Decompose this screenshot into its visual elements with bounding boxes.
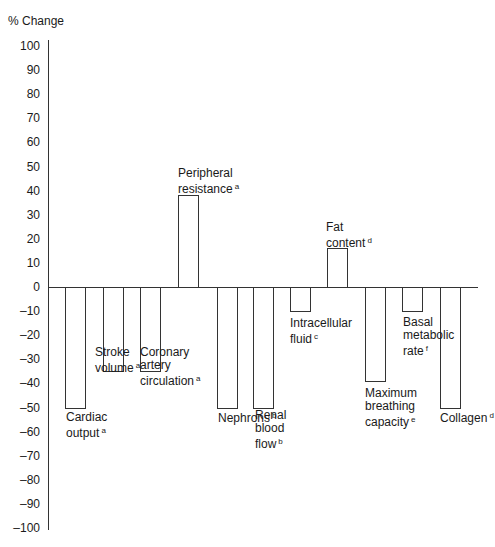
bar — [217, 287, 238, 409]
footnote-marker: a — [196, 374, 200, 383]
y-tick-label: –60 — [0, 426, 40, 438]
y-tick-label: 80 — [0, 88, 40, 100]
y-tick-label: 0 — [0, 281, 40, 293]
footnote-marker: a — [101, 426, 105, 435]
bar — [365, 287, 386, 382]
y-axis-label: % Change — [8, 14, 64, 28]
y-tick-label: –100 — [0, 522, 40, 534]
y-tick-label: 90 — [0, 64, 40, 76]
bar-label: Peripheralresistancea — [178, 167, 239, 196]
bar — [65, 287, 86, 409]
y-tick-label: –30 — [0, 353, 40, 365]
y-tick-label: 100 — [0, 40, 40, 52]
bar-label: Maximumbreathingcapacitye — [365, 387, 417, 429]
y-tick-label: –80 — [0, 474, 40, 486]
y-tick-label: 10 — [0, 257, 40, 269]
footnote-marker: d — [489, 411, 493, 420]
y-tick-label: –40 — [0, 377, 40, 389]
bar-label: Collagend — [440, 409, 494, 425]
footnote-marker: a — [235, 182, 239, 191]
y-tick-label: –10 — [0, 305, 40, 317]
footnote-marker: f — [426, 344, 428, 353]
footnote-marker: d — [367, 236, 371, 245]
y-tick-label: –90 — [0, 498, 40, 510]
y-tick-label: 30 — [0, 209, 40, 221]
y-axis-line — [48, 40, 49, 530]
y-tick-label: 20 — [0, 233, 40, 245]
bar-label: Basalmetabolicratef — [403, 316, 454, 358]
y-tick-label: –20 — [0, 329, 40, 341]
bar — [290, 287, 311, 312]
bar — [402, 287, 423, 312]
bar-label: Strokevolumea — [95, 346, 140, 375]
y-tick-label: 40 — [0, 185, 40, 197]
bar-label: Coronaryarterycirculationa — [140, 346, 200, 388]
footnote-marker: c — [314, 332, 318, 341]
bar-label: Intracellularfluidc — [290, 317, 352, 346]
y-tick-label: 50 — [0, 161, 40, 173]
bar-label: Fatcontentd — [326, 221, 372, 250]
footnote-marker: e — [411, 415, 415, 424]
footnote-marker: b — [278, 437, 282, 446]
y-tick-label: –50 — [0, 402, 40, 414]
y-tick-label: 60 — [0, 136, 40, 148]
y-tick-label: –70 — [0, 450, 40, 462]
bar — [327, 248, 348, 288]
bar — [253, 287, 274, 409]
bar-label: Cardiacoutputa — [66, 411, 107, 440]
y-tick-label: 70 — [0, 112, 40, 124]
bar-label: Renalbloodflowb — [255, 409, 286, 451]
bar — [178, 195, 199, 288]
